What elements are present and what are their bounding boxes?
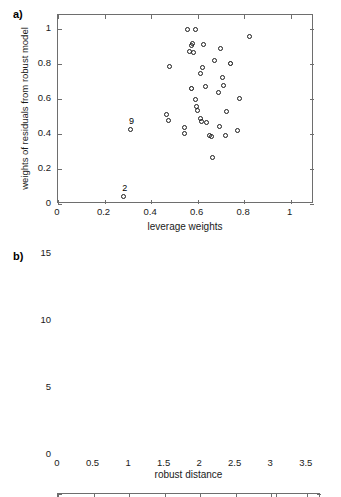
data-point	[195, 108, 200, 113]
data-point	[199, 119, 204, 124]
data-point-label-2: 2	[122, 184, 127, 193]
panel-b-xticklabel: 0.5	[86, 458, 99, 468]
panel-a-yticklabel: 0	[0, 198, 51, 208]
data-point	[228, 61, 233, 66]
data-point	[223, 133, 228, 138]
panel-a-plot-area: 29	[57, 14, 313, 203]
panel-a-xtick-top	[198, 15, 199, 19]
panel-a-ytick	[58, 169, 62, 170]
panel-a-yticklabel: 0.2	[0, 163, 51, 173]
panel-a-ytick	[58, 29, 62, 30]
data-point	[167, 64, 172, 69]
data-point	[218, 46, 223, 51]
panel-a-xticklabel: 0	[54, 207, 59, 217]
panel-a-yticklabel: 0.8	[0, 58, 51, 68]
panel-a-xticklabel: 0.4	[143, 207, 156, 217]
panel-a-xticklabel: 1	[287, 207, 292, 217]
panel-a-ytick	[58, 204, 62, 205]
data-point	[185, 27, 190, 32]
panel-a-xtick	[291, 200, 292, 204]
panel-a-data-layer: 29	[58, 15, 312, 202]
data-point	[121, 194, 126, 199]
panel-a-yticklabel: 0.6	[0, 93, 51, 103]
panel-a-yticklabel: 1	[0, 23, 51, 33]
panel-a-xtick	[198, 200, 199, 204]
panel-a-ytick	[58, 99, 62, 100]
data-point	[128, 127, 133, 132]
panel-b: b) standardized absolute residual from r…	[0, 240, 341, 497]
data-point	[182, 125, 187, 130]
panel-b-x-axis-title: robust distance	[57, 469, 320, 480]
data-point	[216, 90, 221, 95]
data-point	[166, 118, 171, 123]
panel-b-xticklabel: 0	[54, 458, 59, 468]
data-point	[191, 50, 196, 55]
panel-b-yticklabel: 15	[0, 248, 51, 258]
panel-a-xtick	[105, 200, 106, 204]
data-point-label-9: 9	[129, 117, 134, 126]
panel-a-ytick	[58, 134, 62, 135]
panel-b-yticklabel: 5	[0, 382, 51, 392]
data-point	[221, 83, 226, 88]
data-point	[203, 84, 208, 89]
panel-b-y-axis-title: standardized absolute residual from robu…	[26, 493, 48, 497]
panel-a-xticklabel: 0.2	[97, 207, 110, 217]
panel-b-ytick-right	[317, 494, 321, 495]
panel-a-xtick-top	[151, 15, 152, 19]
data-point	[189, 86, 194, 91]
panel-a-x-axis-title: leverage weights	[57, 221, 313, 232]
data-point	[209, 134, 214, 139]
data-point	[217, 124, 222, 129]
panel-a-ytick-right	[310, 99, 314, 100]
panel-a-ytick-right	[310, 29, 314, 30]
data-point	[182, 131, 187, 136]
data-point	[193, 27, 198, 32]
data-point	[235, 128, 240, 133]
panel-a-xtick-top	[58, 15, 59, 19]
panel-b-xticklabel: 1	[125, 458, 130, 468]
data-point	[212, 58, 217, 63]
panel-a-ytick-right	[310, 64, 314, 65]
data-point	[204, 120, 209, 125]
data-point	[220, 75, 225, 80]
panel-a-xticklabel: 0.8	[237, 207, 250, 217]
panel-a-ytick-right	[310, 204, 314, 205]
panel-a-xticklabel: 0.6	[190, 207, 203, 217]
data-point	[201, 42, 206, 47]
panel-a-xtick-top	[244, 15, 245, 19]
data-point	[247, 34, 252, 39]
panel-a: a) weights of residuals from robust mode…	[0, 0, 341, 240]
data-point	[237, 96, 242, 101]
panel-a-ytick	[58, 64, 62, 65]
data-point	[224, 109, 229, 114]
data-point	[190, 41, 195, 46]
panel-b-yticklabel: 10	[0, 315, 51, 325]
panel-b-plot-area: 192	[57, 493, 320, 497]
panel-a-xtick-top	[105, 15, 106, 19]
panel-a-xtick	[244, 200, 245, 204]
panel-a-ytick-right	[310, 134, 314, 135]
panel-a-y-axis-title: weights of residuals from robust model	[20, 14, 31, 203]
panel-b-xticklabel: 1.5	[157, 458, 170, 468]
data-point	[210, 155, 215, 160]
data-point	[193, 97, 198, 102]
panel-a-yticklabel: 0.4	[0, 128, 51, 138]
panel-a-xtick-top	[291, 15, 292, 19]
panel-b-yticklabel: 0	[0, 449, 51, 459]
panel-b-xticklabel: 3.5	[299, 458, 312, 468]
panel-a-ytick-right	[310, 169, 314, 170]
panel-b-xticklabel: 2	[197, 458, 202, 468]
data-point	[164, 112, 169, 117]
panel-b-xticklabel: 2.5	[228, 458, 241, 468]
panel-b-xticklabel: 3	[268, 458, 273, 468]
data-point	[198, 71, 203, 76]
data-point	[200, 65, 205, 70]
panel-a-xtick	[151, 200, 152, 204]
figure-container: a) weights of residuals from robust mode…	[0, 0, 341, 497]
panel-b-ytick	[58, 494, 62, 495]
